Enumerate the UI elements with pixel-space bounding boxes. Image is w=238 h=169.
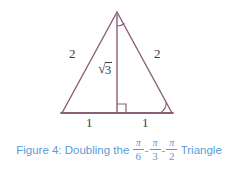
fraction-denominator: 6 [134, 150, 144, 162]
apex-angle-arc-icon [117, 24, 125, 26]
triangle-right-side [117, 12, 172, 113]
label-right-side: 2 [154, 47, 161, 60]
fraction-separator-1: - [144, 145, 149, 156]
label-base-left: 1 [86, 116, 93, 129]
figure-caption: Figure 4: Doubling the π 6 - π 3 - π 2 T… [0, 131, 238, 169]
fraction-pi-over-3: π 3 [150, 138, 161, 162]
right-angle-square-icon [117, 104, 126, 113]
label-altitude-sqrt3: √3 [98, 62, 112, 77]
label-base-right: 1 [142, 116, 149, 129]
fraction-pi-over-6: π 6 [133, 138, 144, 162]
right-vertex-angle-arc-icon [160, 103, 166, 114]
fraction-separator-2: - [161, 145, 166, 156]
figure-container: 2 2 √3 1 1 Figure 4: Doubling the π 6 - … [0, 0, 238, 169]
label-left-side: 2 [69, 47, 76, 60]
caption-suffix: Triangle [181, 144, 222, 156]
fraction-pi-over-2: π 2 [166, 138, 177, 162]
geometry-diagram: 2 2 √3 1 1 [0, 0, 238, 132]
fraction-denominator: 2 [167, 150, 177, 162]
fraction-numerator: π [151, 138, 160, 149]
fraction-denominator: 3 [150, 150, 160, 162]
fraction-numerator: π [167, 138, 176, 149]
caption-prefix: Figure 4: Doubling the [16, 144, 129, 156]
caption-fraction-group: π 6 - π 3 - π 2 [132, 138, 177, 162]
radical-sign-icon: √ [98, 62, 106, 76]
fraction-numerator: π [134, 138, 143, 149]
triangle-drawing [0, 0, 238, 132]
